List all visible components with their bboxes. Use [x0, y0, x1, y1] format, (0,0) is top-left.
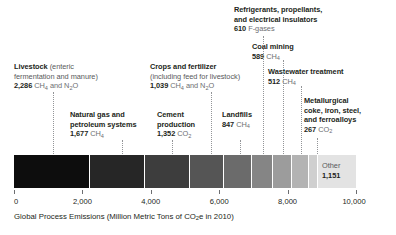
- callout-metallurgical-title3: and ferroalloys: [304, 115, 356, 124]
- axis-tick-4000: [151, 190, 152, 194]
- callout-natural-gas-gas: CH4: [90, 129, 104, 138]
- bar-segment-coal-mining[interactable]: [273, 155, 292, 188]
- callout-wastewater-gas: CH4: [282, 77, 296, 86]
- axis-ticklabel-2000: 2,000: [73, 197, 92, 206]
- callout-crops: Crops and fertilizer (including feed for…: [150, 62, 276, 92]
- stacked-bar: Other 1,151: [14, 155, 356, 188]
- leader-line-cement: [172, 140, 173, 154]
- callout-livestock-sub2: fermentation and manure): [14, 72, 98, 81]
- leader-line-natural-gas: [122, 140, 123, 154]
- callout-refrigerants-gas: F-gases: [248, 24, 274, 33]
- callout-landfills-gas: CH4: [236, 120, 250, 129]
- callout-livestock-value: 2,286: [14, 81, 32, 90]
- callout-livestock: Livestock (enteric fermentation and manu…: [14, 62, 149, 92]
- axis-tick-0: [14, 190, 15, 194]
- bar-segment-natural-gas[interactable]: [90, 155, 146, 188]
- callout-landfills: Landfills 847 CH4: [222, 110, 288, 130]
- bar-segment-crops[interactable]: [190, 155, 224, 188]
- axis-ticklabel-0: 0: [14, 197, 18, 206]
- callout-coal-mining: Coal mining 589 CH4: [252, 42, 372, 62]
- axis-tick-8000: [288, 190, 289, 194]
- callout-metallurgical-title: Metallurgical: [304, 96, 349, 105]
- callout-natural-gas-title: Natural gas and: [70, 110, 125, 119]
- axis-ticklabel-6000: 6,000: [210, 197, 229, 206]
- callout-cement-title2: production: [157, 120, 195, 129]
- callout-wastewater: Wastewater treatment 512 CH4: [268, 67, 396, 87]
- callout-natural-gas-title2: petroleum systems: [70, 120, 137, 129]
- leader-line-landfills: [240, 140, 241, 154]
- axis-ticklabel-4000: 4,000: [141, 197, 160, 206]
- bar-segment-other-label: Other 1,151: [322, 161, 341, 181]
- bar-segment-livestock[interactable]: [14, 155, 90, 188]
- callout-metallurgical: Metallurgical coke, iron, steel, and fer…: [304, 96, 396, 135]
- other-label-text: Other: [322, 161, 341, 171]
- callout-crops-value: 1,039: [150, 81, 168, 90]
- callout-refrigerants-title2: and electrical insulators: [234, 15, 317, 24]
- axis-title-sub: 2: [196, 215, 199, 221]
- axis-tick-10000: [356, 190, 357, 194]
- callout-crops-sub2: (including feed for livestock): [150, 72, 240, 81]
- bar-segment-other[interactable]: Other 1,151: [318, 155, 356, 188]
- bar-segment-wastewater[interactable]: [292, 155, 309, 188]
- callout-natural-gas-value: 1,677: [70, 129, 88, 138]
- callout-coal-mining-title: Coal mining: [252, 42, 294, 51]
- callout-landfills-value: 847: [222, 120, 234, 129]
- leader-line-refrigerants: [263, 36, 264, 154]
- callout-metallurgical-gas: CO2: [318, 125, 332, 134]
- callout-metallurgical-value: 267: [304, 125, 316, 134]
- callout-cement-value: 1,352: [157, 129, 175, 138]
- callout-crops-title: Crops and fertilizer: [150, 62, 216, 71]
- callout-refrigerants-title: Refrigerants, propellants,: [234, 5, 322, 14]
- callout-landfills-title: Landfills: [222, 110, 252, 119]
- callout-cement-gas: CO2: [177, 129, 191, 138]
- callout-natural-gas: Natural gas and petroleum systems 1,677 …: [70, 110, 152, 140]
- global-process-emissions-chart: Refrigerants, propellants, and electrica…: [0, 0, 396, 235]
- axis-tick-6000: [219, 190, 220, 194]
- axis-tick-2000: [82, 190, 83, 194]
- callout-coal-mining-gas: CH4: [266, 52, 280, 61]
- callout-refrigerants: Refrigerants, propellants, and electrica…: [234, 5, 394, 34]
- callout-metallurgical-title2: coke, iron, steel,: [304, 106, 361, 115]
- callout-refrigerants-value: 610: [234, 24, 246, 33]
- axis-ticklabel-10000: 10,000: [342, 197, 365, 206]
- axis-ticklabel-8000: 8,000: [278, 197, 297, 206]
- callout-livestock-sub: (enteric: [48, 62, 74, 71]
- leader-line-livestock: [53, 92, 54, 154]
- other-label-value: 1,151: [322, 171, 341, 181]
- leader-line-coal-mining: [283, 60, 284, 154]
- axis-title: Global Process Emissions (Million Metric…: [14, 212, 234, 221]
- bar-segment-refrigerants[interactable]: [252, 155, 272, 188]
- callout-livestock-gas: CH4 and N2O: [34, 81, 78, 90]
- leader-line-wastewater: [301, 86, 302, 154]
- callout-cement: Cement production 1,352 CO2: [157, 110, 219, 140]
- callout-cement-title: Cement: [157, 110, 184, 119]
- leader-line-crops: [211, 92, 212, 154]
- bar-segment-landfills[interactable]: [224, 155, 252, 188]
- callout-crops-gas: CH4 and N2O: [170, 81, 214, 90]
- bar-segment-cement[interactable]: [145, 155, 190, 188]
- callout-wastewater-title: Wastewater treatment: [268, 67, 344, 76]
- leader-line-metallurgical: [317, 138, 318, 154]
- axis-title-post: e in 2010): [199, 212, 234, 221]
- callout-livestock-title: Livestock: [14, 62, 48, 71]
- bar-segment-metallurgical[interactable]: [309, 155, 318, 188]
- axis-title-pre: Global Process Emissions (Million Metric…: [14, 212, 196, 221]
